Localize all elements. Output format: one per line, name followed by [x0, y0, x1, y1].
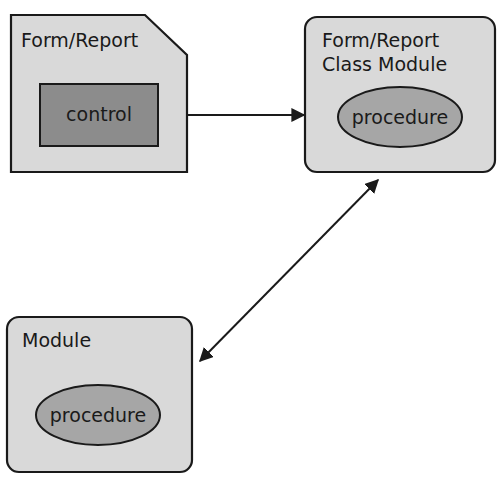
module-node: Module procedure	[7, 317, 192, 472]
class-module-node: Form/Report Class Module procedure	[305, 17, 495, 172]
module-title: Module	[22, 329, 91, 351]
bidirectional-arrow-class-module-module	[200, 180, 378, 361]
class-module-title-line1: Form/Report	[322, 29, 439, 51]
control-label: control	[66, 103, 132, 125]
class-module-title-line2: Class Module	[322, 53, 447, 75]
form-report-node: Form/Report control	[11, 15, 187, 172]
class-procedure-label: procedure	[352, 106, 448, 128]
module-procedure-node: procedure	[36, 385, 160, 445]
form-report-title: Form/Report	[21, 29, 138, 51]
module-procedure-label: procedure	[50, 404, 146, 426]
control-node: control	[40, 84, 158, 146]
class-procedure-node: procedure	[338, 87, 462, 147]
diagram-canvas: Form/Report control Form/Report Class Mo…	[0, 0, 500, 478]
